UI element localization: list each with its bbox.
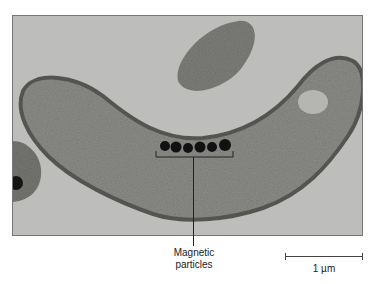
micrograph-image bbox=[13, 16, 363, 236]
debris-blob bbox=[177, 21, 254, 91]
vacuole bbox=[298, 90, 328, 114]
label-line-1: Magnetic bbox=[166, 247, 222, 259]
magnetic-particles-label: Magnetic particles bbox=[166, 247, 222, 271]
adjacent-cell bbox=[13, 141, 41, 202]
micrograph bbox=[12, 15, 363, 236]
label-line-2: particles bbox=[166, 259, 222, 271]
scale-bar-label: 1 µm bbox=[285, 263, 363, 274]
leader-line bbox=[193, 157, 194, 246]
scale-bar bbox=[285, 256, 363, 257]
